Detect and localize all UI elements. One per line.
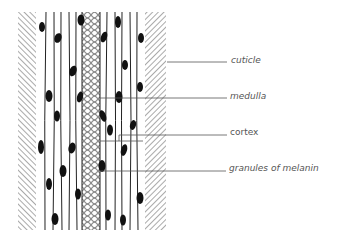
- label-medulla: medulla: [230, 92, 266, 101]
- hair-diagram: [0, 0, 337, 243]
- label-cortex: cortex: [230, 128, 258, 137]
- cuticle-right: [145, 12, 166, 230]
- label-granules: granules of melanin: [229, 164, 319, 173]
- medulla: [82, 12, 100, 230]
- label-cuticle: cuticle: [231, 56, 261, 65]
- cuticle-left: [18, 12, 36, 230]
